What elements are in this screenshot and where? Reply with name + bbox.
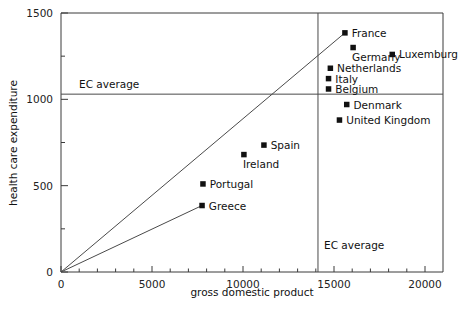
data-point-label: United Kingdom xyxy=(346,114,430,126)
x-tick-label: 15000 xyxy=(317,278,350,290)
y-tick-label: 1500 xyxy=(26,7,53,19)
data-point-marker xyxy=(241,152,247,158)
data-point: Germany xyxy=(350,45,400,63)
data-point-marker xyxy=(342,30,348,36)
scatter-chart: 05000100001500020000 050010001500 France… xyxy=(0,0,465,313)
y-tick-label: 0 xyxy=(46,266,53,278)
ec-average-vertical-label: EC average xyxy=(324,239,384,251)
data-point: Belgium xyxy=(326,83,379,95)
data-point-marker xyxy=(328,66,334,72)
data-point-label: France xyxy=(352,27,387,39)
ec-average-horizontal-label: EC average xyxy=(79,78,139,90)
data-point-label: Germany xyxy=(352,51,400,63)
data-point-marker xyxy=(199,203,205,209)
y-axis-ticks xyxy=(61,13,68,272)
trend-lines xyxy=(61,33,345,272)
x-axis-title: gross domestic product xyxy=(190,286,313,298)
y-tick-label: 1000 xyxy=(26,93,53,105)
upper-ray xyxy=(61,33,345,272)
x-tick-label: 5000 xyxy=(139,278,166,290)
data-point-marker xyxy=(200,181,206,187)
data-point-label: Greece xyxy=(209,200,246,212)
data-point: France xyxy=(342,27,386,39)
lower-ray xyxy=(61,206,202,272)
x-tick-label: 20000 xyxy=(408,278,441,290)
data-point: Ireland xyxy=(241,152,279,170)
data-point: Greece xyxy=(199,200,246,212)
data-point-label: Ireland xyxy=(243,158,279,170)
data-point-marker xyxy=(326,76,332,82)
y-tick-label: 500 xyxy=(33,180,53,192)
y-axis-title: health care expenditure xyxy=(7,80,19,206)
data-point-label: Luxemburg xyxy=(399,48,458,60)
chart-canvas: 05000100001500020000 050010001500 France… xyxy=(0,0,465,313)
data-point-marker xyxy=(350,45,356,51)
data-point-label: Belgium xyxy=(335,83,378,95)
data-point-marker xyxy=(344,102,350,108)
data-point-series: FranceLuxemburgGermanyNetherlandsItalyBe… xyxy=(199,27,458,212)
data-point: Denmark xyxy=(344,99,403,111)
data-point-label: Denmark xyxy=(353,99,402,111)
data-point: Portugal xyxy=(200,178,253,190)
data-point-marker xyxy=(326,86,332,92)
data-point-marker xyxy=(261,142,267,148)
y-axis-tick-labels: 050010001500 xyxy=(26,7,53,278)
data-point-label: Spain xyxy=(271,139,300,151)
x-tick-label: 0 xyxy=(58,278,65,290)
x-axis-ticks xyxy=(61,266,425,272)
data-point: Spain xyxy=(261,139,300,151)
data-point: United Kingdom xyxy=(337,114,431,126)
data-point-label: Portugal xyxy=(210,178,254,190)
data-point-marker xyxy=(337,117,343,123)
